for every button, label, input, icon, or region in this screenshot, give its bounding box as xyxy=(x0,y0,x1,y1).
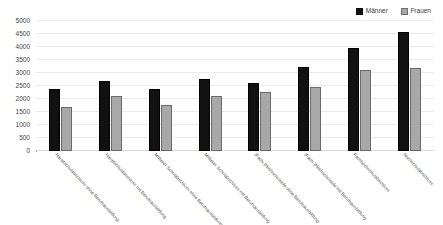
y-axis-tick-label: 500 xyxy=(4,135,30,142)
legend-label-frauen: Frauen xyxy=(410,8,431,15)
bar-frauen xyxy=(360,70,371,151)
x-axis-category-label: Hauptschulabschluss mit Berufsausbildung xyxy=(104,152,167,220)
chart-legend: Männer Frauen xyxy=(356,8,431,15)
y-axis-tick-label: 3000 xyxy=(4,70,30,77)
bar-frauen xyxy=(211,96,222,151)
bar-frauen xyxy=(410,68,421,151)
bar-frauen xyxy=(260,92,271,151)
bar-maenner xyxy=(149,89,160,151)
legend-swatch-frauen xyxy=(401,8,408,15)
bar-group xyxy=(285,21,335,151)
bar-group xyxy=(86,21,136,151)
bar-group xyxy=(36,21,86,151)
bar-group xyxy=(136,21,186,151)
bar-maenner xyxy=(199,79,210,151)
y-axis-tick-label: 4500 xyxy=(4,31,30,38)
y-axis-tick-label: 0 xyxy=(4,148,30,155)
bar-group xyxy=(185,21,235,151)
legend-item-frauen: Frauen xyxy=(401,8,431,15)
x-axis-labels: Hauptschulabschluss ohne Berufsausbildun… xyxy=(36,152,434,224)
y-axis-tick-label: 3500 xyxy=(4,57,30,64)
bar-maenner xyxy=(99,81,110,151)
plot-area xyxy=(36,21,434,151)
x-axis-category-label: Fachhochschulabschluss xyxy=(353,152,392,193)
legend-swatch-maenner xyxy=(356,8,363,15)
y-axis-tick-label: 5000 xyxy=(4,18,30,25)
y-axis-tick-label: 1500 xyxy=(4,109,30,116)
y-axis-tick-label: 2500 xyxy=(4,83,30,90)
bar-maenner xyxy=(49,89,60,151)
bar-frauen xyxy=(161,105,172,151)
bar-maenner xyxy=(298,67,309,151)
bar-maenner xyxy=(348,48,359,151)
legend-item-maenner: Männer xyxy=(356,8,388,15)
bar-group xyxy=(335,21,385,151)
bar-maenner xyxy=(398,32,409,151)
bar-chart: Männer Frauen 05001000150020002500300035… xyxy=(0,0,443,225)
bar-frauen xyxy=(310,87,321,151)
x-axis-category-label: Hochschulabschluss xyxy=(402,152,434,186)
bar-maenner xyxy=(248,83,259,151)
bar-frauen xyxy=(61,107,72,151)
bar-group xyxy=(235,21,285,151)
legend-label-maenner: Männer xyxy=(366,8,388,15)
bar-frauen xyxy=(111,96,122,151)
bars-layer xyxy=(36,21,434,151)
y-axis-tick-label: 4000 xyxy=(4,44,30,51)
y-axis-tick-label: 1000 xyxy=(4,122,30,129)
bar-group xyxy=(384,21,434,151)
y-axis-tick-label: 2000 xyxy=(4,96,30,103)
